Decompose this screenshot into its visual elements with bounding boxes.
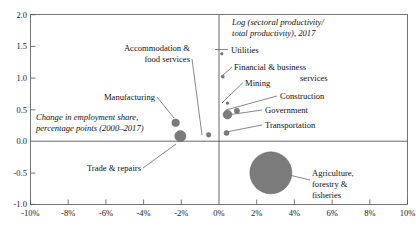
y-tick-marks bbox=[31, 15, 36, 205]
y-tick-label-1.0: 1.0 bbox=[16, 73, 27, 83]
label-accommodation-line2: food services bbox=[144, 54, 190, 64]
leader-transportation bbox=[226, 125, 262, 132]
scatter-chart: 2.0 1.5 1.0 0.5 0.0 -0.5 -1.0 -10% -8% -… bbox=[0, 0, 416, 228]
label-trade: Trade & repairs bbox=[87, 163, 142, 173]
label-construction: Construction bbox=[280, 91, 325, 101]
label-financial-line2: services bbox=[300, 73, 328, 83]
x-axis-note-line1: Change in employment share, bbox=[36, 112, 138, 122]
y-tick-label-0.5: 0.5 bbox=[16, 105, 27, 115]
x-tick-label-0: 0% bbox=[213, 208, 224, 218]
x-tick-label--2: -2% bbox=[174, 208, 188, 218]
bubble-transportation bbox=[224, 130, 229, 135]
x-tick-label-10: 10% bbox=[400, 208, 416, 218]
label-agriculture-line1: Agriculture, bbox=[312, 168, 354, 178]
label-accommodation-line1: Accommodation & bbox=[124, 43, 190, 53]
label-financial-line1: Financial & business bbox=[234, 62, 307, 72]
label-agriculture-line2: forestry & bbox=[312, 179, 348, 189]
bubble-accommodation bbox=[206, 133, 211, 138]
x-tick-label--4: -4% bbox=[137, 208, 151, 218]
bubble-agriculture bbox=[250, 152, 292, 194]
y-tick-label--0.5: -0.5 bbox=[14, 168, 27, 178]
x-tick-label-8: 8% bbox=[364, 208, 375, 218]
bubble-construction bbox=[234, 108, 239, 113]
y-axis-note-line1: Log (sectoral productivity/ bbox=[231, 17, 325, 27]
bubble-manufacturing bbox=[172, 119, 180, 127]
x-tick-label-6: 6% bbox=[326, 208, 337, 218]
leader-manufacturing bbox=[157, 97, 174, 118]
label-government: Government bbox=[265, 105, 309, 115]
y-tick-label-2.0: 2.0 bbox=[16, 10, 27, 20]
chart-container: 2.0 1.5 1.0 0.5 0.0 -0.5 -1.0 -10% -8% -… bbox=[0, 0, 416, 228]
label-agriculture-line3: fisheries bbox=[312, 190, 342, 200]
bubble-mining bbox=[226, 102, 229, 105]
x-tick-label--10: -10% bbox=[21, 208, 39, 218]
x-tick-label--6: -6% bbox=[99, 208, 113, 218]
label-utilities: Utilities bbox=[231, 45, 259, 55]
label-transportation: Transportation bbox=[265, 120, 316, 130]
x-tick-label--8: -8% bbox=[61, 208, 75, 218]
bubble-government bbox=[223, 110, 232, 119]
x-axis-note-line2: percentage points (2000–2017) bbox=[35, 123, 144, 133]
bubble-utilities bbox=[221, 52, 224, 55]
label-mining: Mining bbox=[245, 78, 271, 88]
y-axis-note-line2: total productivity), 2017 bbox=[232, 28, 316, 38]
y-tick-label-0.0: 0.0 bbox=[16, 136, 27, 146]
leader-trade bbox=[143, 144, 176, 168]
y-tick-label-1.5: 1.5 bbox=[16, 41, 27, 51]
leader-accommodation bbox=[192, 59, 202, 135]
bubble-trade bbox=[175, 131, 186, 142]
leader-mining bbox=[222, 83, 243, 104]
x-tick-label-4: 4% bbox=[289, 208, 300, 218]
x-tick-label-2: 2% bbox=[251, 208, 262, 218]
label-manufacturing: Manufacturing bbox=[104, 92, 156, 102]
bubble-financial bbox=[221, 75, 224, 78]
